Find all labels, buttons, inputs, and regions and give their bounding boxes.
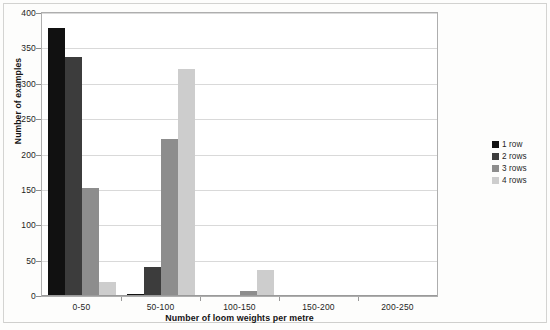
bar [48, 28, 65, 295]
y-axis-tick-label: 250 [6, 114, 36, 124]
y-axis-tick-label: 200 [6, 150, 36, 160]
legend-swatch [492, 153, 499, 160]
x-axis-title: Number of loom weights per metre [41, 313, 438, 323]
legend-swatch [492, 141, 499, 148]
bar-chart-figure: Number of examples 050100150200250300350… [0, 0, 550, 330]
bar [65, 57, 82, 295]
x-axis-tick-label: 50-100 [147, 302, 175, 312]
y-axis-tick-label: 0 [6, 291, 36, 301]
chart-legend: 1 row2 rows3 rows4 rows [492, 138, 546, 186]
y-axis-tick-label: 50 [6, 256, 36, 266]
page-frame-left [3, 3, 4, 323]
bar [144, 267, 161, 295]
legend-label: 4 rows [502, 176, 527, 185]
x-axis-tick-mark [200, 297, 201, 301]
legend-item: 2 rows [492, 150, 546, 162]
bar-group [364, 12, 432, 295]
legend-item: 4 rows [492, 174, 546, 186]
y-axis-tick-label: 400 [6, 8, 36, 18]
legend-item: 3 rows [492, 162, 546, 174]
y-axis-tick-label: 300 [6, 79, 36, 89]
x-axis-tick-mark [358, 297, 359, 301]
legend-label: 1 row [502, 140, 523, 149]
legend-item: 1 row [492, 138, 546, 150]
legend-swatch [492, 165, 499, 172]
x-axis-tick-label: 0-50 [73, 302, 91, 312]
y-axis-tick-label: 350 [6, 43, 36, 53]
legend-swatch [492, 177, 499, 184]
y-axis-tick-label: 100 [6, 220, 36, 230]
x-axis-tick-mark [121, 297, 122, 301]
page-frame-top [3, 3, 547, 4]
bar [257, 270, 274, 295]
bar-group [206, 12, 274, 295]
legend-label: 2 rows [502, 152, 527, 161]
bar [178, 69, 195, 295]
bar [161, 139, 178, 295]
bar [99, 282, 116, 295]
bar-group [48, 12, 116, 295]
plot-area [41, 12, 438, 297]
x-axis-tick-label: 150-200 [302, 302, 335, 312]
legend-label: 3 rows [502, 164, 527, 173]
y-axis-tick-label: 150 [6, 185, 36, 195]
x-axis-tick-label: 200-250 [381, 302, 414, 312]
bar-group [285, 12, 353, 295]
page-frame-right [546, 3, 547, 323]
x-axis-tick-label: 100-150 [223, 302, 256, 312]
x-axis-tick-mark [279, 297, 280, 301]
x-axis-baseline [42, 295, 437, 296]
bar [82, 188, 99, 295]
bar-group [127, 12, 195, 295]
